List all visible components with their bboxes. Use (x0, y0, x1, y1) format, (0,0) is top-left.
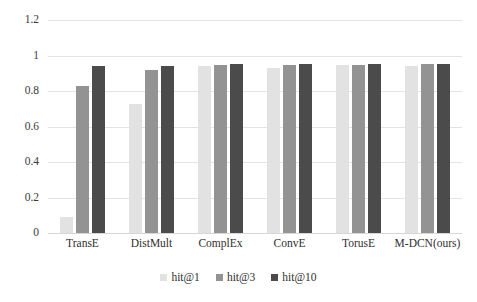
x-tick-label: M-DCN(ours) (393, 238, 462, 250)
bar (368, 64, 381, 233)
y-tick-label: 1.2 (5, 14, 39, 26)
bar-group (255, 20, 324, 233)
bar (161, 66, 174, 233)
x-tick-label: TorusE (324, 238, 393, 250)
gridline (48, 233, 462, 234)
bar (129, 104, 142, 233)
bar-chart: 1.210.80.60.40.20 TransEDistMultComplExC… (0, 0, 477, 302)
bar-group (324, 20, 393, 233)
bar-group (117, 20, 186, 233)
bar (214, 65, 227, 233)
x-tick-label: ConvE (255, 238, 324, 250)
x-tick-label: ComplEx (186, 238, 255, 250)
bar (145, 70, 158, 233)
x-tick-label: TransE (48, 238, 117, 250)
bar (92, 66, 105, 233)
chart-legend: hit@1hit@3hit@10 (0, 272, 477, 284)
legend-swatch-icon (216, 274, 223, 281)
bar (421, 64, 434, 233)
legend-label: hit@1 (171, 272, 199, 284)
y-tick-label: 0.6 (5, 121, 39, 133)
bar-group (48, 20, 117, 233)
bar (437, 64, 450, 234)
bar-groups (48, 20, 462, 233)
legend-item: hit@3 (216, 272, 255, 284)
y-tick-label: 0 (5, 227, 39, 239)
bar-group (393, 20, 462, 233)
x-tick-label: DistMult (117, 238, 186, 250)
bar (299, 64, 312, 233)
legend-item: hit@10 (271, 272, 316, 284)
y-tick-label: 0.4 (5, 156, 39, 168)
bar (230, 64, 243, 233)
bar (76, 86, 89, 233)
bar-group (186, 20, 255, 233)
y-tick-label: 0.2 (5, 192, 39, 204)
y-tick-label: 1 (5, 50, 39, 62)
bar (336, 65, 349, 233)
legend-label: hit@10 (282, 272, 316, 284)
bar (352, 65, 365, 233)
legend-swatch-icon (160, 274, 167, 281)
legend-item: hit@1 (160, 272, 199, 284)
bar (60, 217, 73, 233)
bar (267, 68, 280, 233)
legend-label: hit@3 (227, 272, 255, 284)
x-axis: TransEDistMultComplExConvETorusEM-DCN(ou… (48, 238, 462, 250)
bar (283, 65, 296, 233)
bar (405, 66, 418, 233)
legend-swatch-icon (271, 274, 278, 281)
y-tick-label: 0.8 (5, 85, 39, 97)
bar (198, 66, 211, 233)
